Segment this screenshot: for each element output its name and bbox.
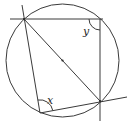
angle-y-arc [89,19,100,30]
angle-y-label: y [82,25,90,38]
point-b [99,100,101,102]
point-a [23,18,25,20]
centre-dot [61,59,63,61]
angle-x-label: x [47,94,54,107]
circle-geometry-diagram: x y [0,0,130,121]
line-ac-extended [22,5,40,113]
